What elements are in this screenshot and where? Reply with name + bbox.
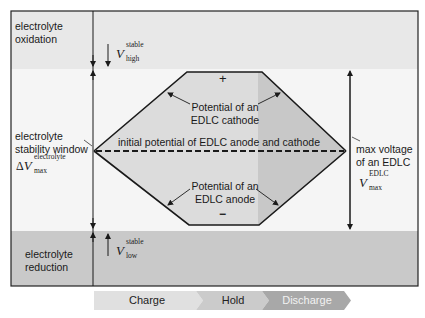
anode-label-line1: Potential of an [185,180,265,193]
v-low-sub: low [126,251,137,260]
initial-potential-label: initial potential of EDLC anode and cath… [118,136,320,149]
v-high-symbol: V stable high [116,46,124,62]
stability-label-line1: electrolyte [15,130,88,143]
cathode-label-line1: Potential of an [185,101,265,114]
delta-v-sub: max [34,166,47,175]
oxidation-label: electrolyte oxidation [15,20,63,46]
v-max-edlc-sub: max [369,183,382,192]
v-low-sup: stable [126,237,144,246]
v-high-main: V [116,46,124,61]
phase-discharge: Discharge [266,291,348,310]
max-voltage-label-line1: max voltage [356,143,413,156]
v-max-edlc-symbol: V EDLC max [359,175,367,191]
v-low-main: V [116,243,124,258]
max-voltage-label-line2: of an EDLC [356,156,413,169]
v-high-sup: stable [126,40,144,49]
phase-hold: Hold [200,291,266,310]
phase-charge: Charge [94,291,200,310]
anode-label-line2: EDLC anode [185,193,265,206]
anode-label: Potential of an EDLC anode [185,180,265,206]
delta-prefix: Δ [16,159,24,173]
minus-sign: − [219,208,226,221]
v-max-edlc-sup: EDLC [369,169,389,178]
plus-sign: + [219,72,227,85]
v-max-edlc-main: V [359,175,367,190]
v-low-symbol: V stable low [116,243,124,259]
v-high-sub: high [126,54,139,63]
delta-v-sup: electrolyte [34,152,66,161]
cathode-label-line2: EDLC cathode [185,114,265,127]
reduction-label-line1: electrolyte [25,248,73,261]
oxidation-label-line1: electrolyte [15,20,63,33]
delta-v-max-symbol: ΔV electrolyte max [16,158,32,174]
max-voltage-label: max voltage of an EDLC [356,143,413,169]
reduction-label-line2: reduction [25,261,73,274]
oxidation-band [11,11,418,69]
delta-v-main: V [24,158,32,173]
oxidation-label-line2: oxidation [15,33,63,46]
cathode-label: Potential of an EDLC cathode [185,101,265,127]
reduction-label: electrolyte reduction [25,248,73,274]
